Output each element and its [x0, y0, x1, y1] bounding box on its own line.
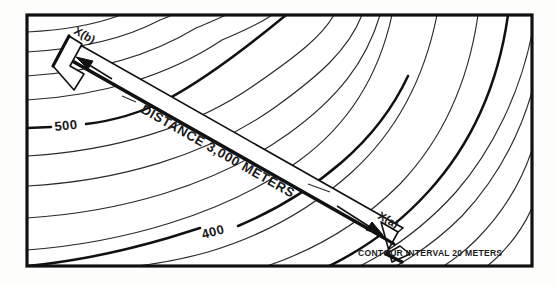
contour-line-bold-segment: [27, 127, 51, 128]
contour-interval-caption: CONTOUR INTERVAL 20 METERS: [358, 248, 502, 258]
contour-label-500: 500: [54, 117, 78, 134]
contour-map: DISTANCE 3,000 METERS X(b) X(a) 500 400 …: [0, 0, 557, 286]
figure-container: DISTANCE 3,000 METERS X(b) X(a) 500 400 …: [0, 0, 557, 286]
